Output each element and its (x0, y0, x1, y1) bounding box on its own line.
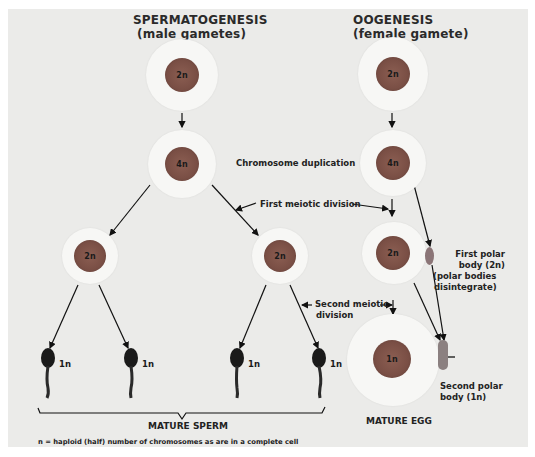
sperm-cell-2 (123, 348, 139, 404)
second-meiotic-division-label-line1: Second meiotic (315, 299, 388, 310)
sperm-ploidy-label: 1n (142, 359, 154, 369)
sperm-primary-cell: 2n (146, 39, 218, 111)
sperm-ploidy-label: 1n (59, 359, 71, 369)
sperm-icon (229, 348, 245, 400)
ploidy-label: 1n (386, 355, 397, 364)
second-polar-body (438, 340, 448, 370)
sperm-secondary-left-cell: 2n (62, 228, 118, 284)
nucleus: 2n (264, 240, 296, 272)
mature-egg-label: MATURE EGG (366, 416, 432, 427)
sperm-icon (311, 348, 327, 400)
ploidy-label: 4n (176, 160, 187, 169)
sperm-icon (40, 348, 56, 400)
nucleus: 2n (165, 58, 199, 92)
ploidy-label: 2n (387, 249, 398, 258)
footnote: n = haploid (half) number of chromosomes… (38, 437, 298, 448)
sperm-ploidy-label: 1n (248, 359, 260, 369)
mature-egg-cell: 1n (347, 314, 439, 406)
egg-primary-cell: 2n (358, 37, 428, 111)
second-polar-body-label-line2: body (1n) (440, 392, 486, 403)
chromosome-duplication-label: Chromosome duplication (236, 158, 355, 169)
ploidy-label: 2n (274, 252, 285, 261)
second-polar-body-label-line1: Second polar (440, 381, 503, 392)
sperm-icon (123, 348, 139, 400)
sperm-secondary-right-cell: 2n (252, 228, 308, 284)
ploidy-label: 2n (387, 70, 398, 79)
sperm-cell-1 (40, 348, 56, 404)
egg-secondary-cell: 2n (362, 222, 426, 284)
first-polar-body-label-line4: disintegrate) (434, 282, 497, 293)
nucleus: 4n (165, 147, 199, 181)
nucleus: 1n (373, 340, 411, 378)
egg-duplicated-cell: 4n (360, 130, 426, 196)
ploidy-label: 2n (176, 71, 187, 80)
nucleus: 4n (376, 146, 410, 180)
first-polar-body-label-line2: body (2n) (443, 260, 505, 271)
first-meiotic-division-label: First meiotic division (260, 199, 361, 210)
first-polar-body-label-line1: First polar (443, 249, 505, 260)
sperm-ploidy-label: 1n (330, 359, 342, 369)
nucleus: 2n (376, 236, 410, 270)
sperm-duplicated-cell: 4n (148, 130, 216, 198)
sperm-cell-4 (311, 348, 327, 404)
sperm-cell-3 (229, 348, 245, 404)
first-polar-body-label-line3: (polar bodies (433, 271, 496, 282)
ploidy-label: 2n (84, 252, 95, 261)
mature-sperm-label: MATURE SPERM (148, 421, 228, 432)
nucleus: 2n (376, 57, 410, 91)
ploidy-label: 4n (387, 159, 398, 168)
first-polar-body (425, 247, 434, 265)
nucleus: 2n (74, 240, 106, 272)
second-meiotic-division-label-line2: division (316, 310, 353, 321)
